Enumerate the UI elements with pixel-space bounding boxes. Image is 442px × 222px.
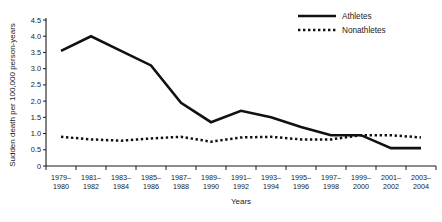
- y-axis: 00.51.01.52.02.53.03.54.04.5: [31, 16, 46, 171]
- x-tick-label: 2001–: [381, 173, 401, 182]
- x-tick-label: 1991–: [231, 173, 251, 182]
- x-tick-label: 2003–: [411, 173, 431, 182]
- x-tick-label: 1998: [323, 182, 339, 191]
- x-tick-label: 1997–: [321, 173, 341, 182]
- series-line-athletes: [61, 36, 421, 148]
- y-tick-label: 2.0: [31, 97, 41, 106]
- x-tick-label: 1999–: [351, 173, 371, 182]
- x-tick-label: 1980: [53, 182, 69, 191]
- x-tick-label: 1981–: [81, 173, 101, 182]
- y-tick-label: 0.5: [31, 145, 41, 154]
- x-tick-label: 2000: [353, 182, 369, 191]
- y-tick-label: 0: [37, 162, 41, 171]
- series-lines: [61, 36, 421, 148]
- y-tick-label: 4.0: [31, 32, 41, 41]
- chart-legend: AthletesNonathletes: [298, 12, 386, 35]
- x-tick-label: 1984: [113, 182, 129, 191]
- y-tick-label: 1.5: [31, 113, 41, 122]
- x-tick-label: 1996: [293, 182, 309, 191]
- x-tick-label: 2002: [383, 182, 399, 191]
- x-tick-label: 1988: [173, 182, 189, 191]
- legend-label-athletes: Athletes: [342, 12, 372, 21]
- x-tick-label: 1993–: [261, 173, 281, 182]
- legend-label-nonathletes: Nonathletes: [342, 26, 386, 35]
- y-tick-label: 2.5: [31, 80, 41, 89]
- x-tick-label: 1987–: [171, 173, 191, 182]
- x-tick-label: 1982: [83, 182, 99, 191]
- x-tick-label: 1985–: [141, 173, 161, 182]
- x-tick-label: 1986: [143, 182, 159, 191]
- y-axis-title: Sudden death per 100,000 person-years: [8, 23, 17, 167]
- x-tick-label: 1992: [233, 182, 249, 191]
- x-tick-label: 1979–: [51, 173, 71, 182]
- sudden-death-line-chart: 00.51.01.52.02.53.03.54.04.5 1979–198019…: [0, 0, 442, 222]
- x-tick-label: 2004: [413, 182, 429, 191]
- x-tick-label: 1990: [203, 182, 219, 191]
- x-tick-label: 1983–: [111, 173, 131, 182]
- y-tick-label: 1.0: [31, 129, 41, 138]
- x-tick-label: 1994: [263, 182, 279, 191]
- x-tick-label: 1989–: [201, 173, 221, 182]
- x-axis-title: Years: [231, 197, 251, 206]
- y-tick-label: 3.0: [31, 64, 41, 73]
- chart-canvas: 00.51.01.52.02.53.03.54.04.5 1979–198019…: [0, 0, 442, 222]
- y-tick-label: 3.5: [31, 48, 41, 57]
- x-tick-label: 1995–: [291, 173, 311, 182]
- x-axis: 1979–19801981–19821983–19841985–19861987…: [46, 166, 436, 191]
- y-tick-label: 4.5: [31, 16, 41, 25]
